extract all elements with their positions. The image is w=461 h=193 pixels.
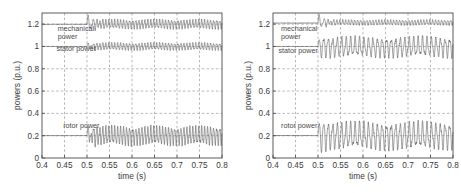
x-tick-label: 0.55 [333,161,349,170]
x-tick-label: 0.6 [357,161,369,170]
series-annotation-line: stator power [278,46,318,55]
y-axis-title: powers (p.u.) [243,61,253,110]
x-tick-label: 0.5 [312,161,324,170]
y-tick-label: 0.2 [28,132,40,141]
y-tick-label: 0.8 [259,65,271,74]
x-tick-label: 0.5 [81,161,93,170]
series-annotation-rotor-power: rotor power [281,121,318,130]
y-axis-title: powers (p.u.) [12,61,22,110]
power-vs-time-plot-left: 0.40.450.50.550.60.650.70.750.800.20.40.… [0,0,230,193]
y-tick-label: 1 [34,42,39,51]
y-tick-label: 0.4 [28,109,40,118]
x-tick-label: 0.65 [378,161,394,170]
chart-panel-right: 0.40.450.50.550.60.650.70.750.800.20.40.… [230,0,460,193]
x-tick-label: 0.45 [288,161,304,170]
y-tick-label: 0.6 [259,87,271,96]
x-axis-title: time (s) [118,171,146,181]
series-annotation-rotor-power: rotor power [63,121,100,130]
x-tick-label: 0.55 [102,161,118,170]
x-tick-label: 0.7 [402,161,414,170]
x-tick-label: 0.75 [423,161,439,170]
x-axis-title: time (s) [349,171,377,181]
y-tick-label: 0 [34,154,39,163]
chart-panel-left: 0.40.450.50.550.60.650.70.750.800.20.40.… [0,0,230,193]
series-annotation-line: rotor power [63,121,100,130]
y-tick-label: 0.6 [28,87,40,96]
x-tick-label: 0.45 [57,161,73,170]
x-tick-label: 0.8 [216,161,228,170]
y-tick-label: 1 [265,42,270,51]
x-tick-label: 0.8 [447,161,459,170]
series-annotation-line: stator power [56,44,96,53]
series-annotation-line: rotor power [281,121,318,130]
x-tick-label: 0.6 [126,161,138,170]
y-tick-label: 1.2 [28,20,40,29]
series-annotation-line: power [58,32,78,41]
x-tick-label: 0.75 [192,161,208,170]
series-annotation-stator-power: stator power [278,46,318,55]
figure-row: 0.40.450.50.550.60.650.70.750.800.20.40.… [0,0,461,193]
power-vs-time-plot-right: 0.40.450.50.550.60.650.70.750.800.20.40.… [230,0,461,193]
x-tick-label: 0.7 [171,161,183,170]
y-tick-label: 0.4 [259,109,271,118]
y-tick-label: 0 [265,154,270,163]
y-tick-label: 0.2 [259,132,271,141]
series-annotation-stator-power: stator power [56,44,96,53]
series-annotation-line: power [281,32,301,41]
y-tick-label: 0.8 [28,65,40,74]
x-tick-label: 0.65 [147,161,163,170]
y-tick-label: 1.2 [259,20,271,29]
